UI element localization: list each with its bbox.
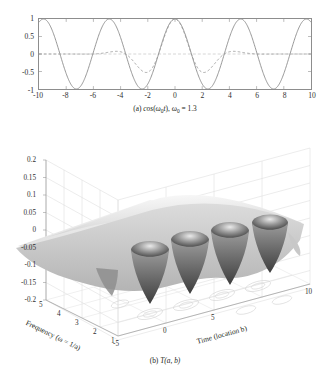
caption-a-prefix: (a) bbox=[133, 104, 141, 113]
figure-container: 1 0.5 0 -0.5 -1 -10 -8 -6 -4 -2 0 2 4 6 … bbox=[0, 0, 330, 384]
timetick-label: 0 bbox=[163, 328, 167, 335]
caption-panel-a: (a) cos(ω0t), ω0 = 1.3 bbox=[0, 104, 330, 116]
caption-panel-b: (b) T(a, b) bbox=[0, 356, 330, 365]
xtick-label: 8 bbox=[272, 92, 298, 100]
ztick-label: 0.2 bbox=[2, 157, 36, 164]
xtick-label: -8 bbox=[52, 92, 78, 100]
ztick-label: -0.2 bbox=[2, 297, 36, 304]
ztick-label: 0 bbox=[2, 227, 36, 234]
xtick-label: -6 bbox=[80, 92, 106, 100]
caption-b-prefix: (b) bbox=[150, 356, 159, 365]
freqtick-label: 2 bbox=[93, 329, 97, 336]
xtick-label: 4 bbox=[217, 92, 243, 100]
freqtick-label: 5 bbox=[39, 302, 43, 309]
timetick-label: 5 bbox=[211, 315, 215, 322]
xtick-label: 6 bbox=[244, 92, 270, 100]
caption-b-args: (a, b) bbox=[164, 356, 180, 365]
xtick-label: -10 bbox=[25, 92, 51, 100]
xtick-label: -4 bbox=[107, 92, 133, 100]
ztick-label: 0.15 bbox=[2, 175, 36, 182]
panel-b-surface-plot: 0.2 0.15 0.1 0.05 0 -0.05 -0.1 -0.15 -0.… bbox=[0, 128, 330, 356]
xtick-label: -2 bbox=[135, 92, 161, 100]
caption-a-value: = 1.3 bbox=[180, 104, 197, 113]
timetick-label: -5 bbox=[113, 341, 119, 348]
panel-a-line-plot: 1 0.5 0 -0.5 -1 -10 -8 -6 -4 -2 0 2 4 6 … bbox=[0, 0, 330, 125]
ztick-label: 0.1 bbox=[2, 192, 36, 199]
xtick-label: 0 bbox=[162, 92, 188, 100]
ztick-label: -0.05 bbox=[2, 245, 36, 252]
freqtick-label: 4 bbox=[57, 311, 61, 318]
ztick-label: -0.1 bbox=[2, 262, 36, 269]
ztick-label: 0.05 bbox=[2, 210, 36, 217]
xtick-label: 10 bbox=[299, 92, 325, 100]
xtick-label: 2 bbox=[189, 92, 215, 100]
timetick-label: 10 bbox=[305, 289, 312, 296]
plot3d-svg bbox=[0, 128, 330, 356]
caption-a-func: cos bbox=[143, 104, 153, 113]
ztick-label: -0.15 bbox=[2, 280, 36, 287]
freqtick-label: 3 bbox=[75, 320, 79, 327]
z-tick-marks bbox=[43, 160, 46, 300]
